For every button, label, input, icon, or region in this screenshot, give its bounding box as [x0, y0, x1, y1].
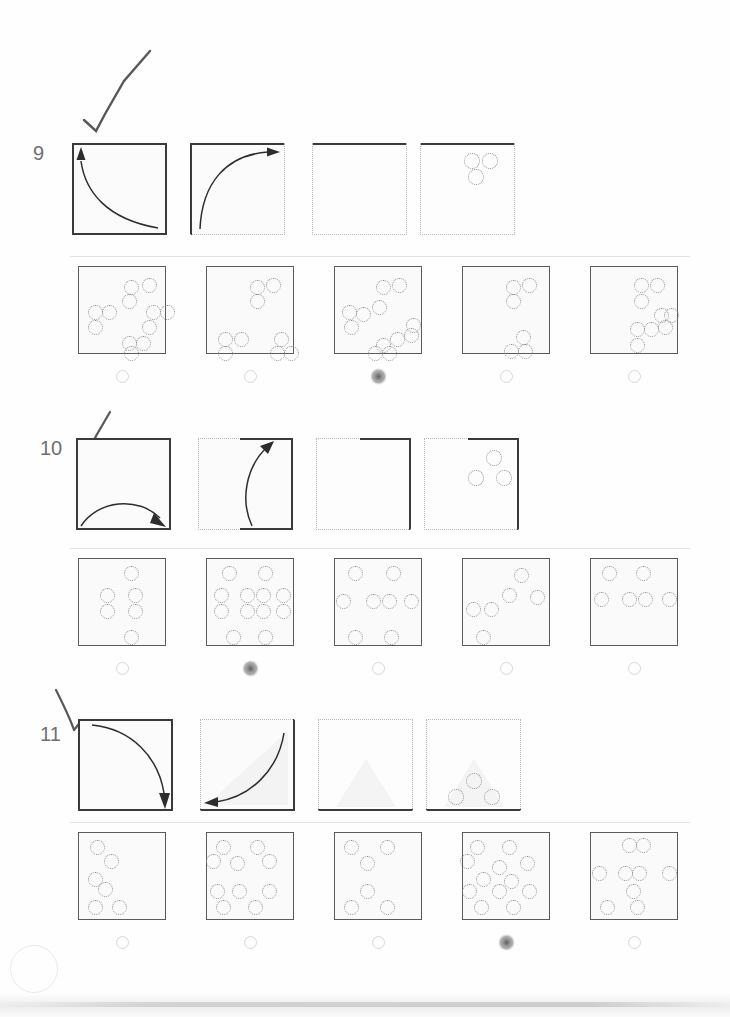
answer-bubble-9-D[interactable]: [500, 370, 513, 383]
row-separator: [70, 256, 690, 257]
punched-hole: [142, 320, 157, 335]
punched-hole: [630, 322, 645, 337]
edge-solid-right: [409, 438, 411, 530]
punched-hole: [476, 630, 491, 645]
punched-hole: [248, 900, 263, 915]
punched-hole: [384, 630, 399, 645]
punched-hole: [88, 305, 103, 320]
answer-bubble-9-A[interactable]: [116, 370, 129, 383]
punched-hole: [146, 305, 161, 320]
answer-bubble-10-B[interactable]: [244, 662, 257, 675]
punched-hole: [404, 328, 419, 343]
punched-hole: [662, 866, 677, 881]
answer-bubble-11-A[interactable]: [116, 936, 129, 949]
option-box-11-D[interactable]: [462, 832, 550, 920]
stimulus-box-10-1: [76, 438, 171, 530]
option-box-9-A[interactable]: [78, 266, 166, 354]
edge-dotted-left: [420, 143, 421, 235]
punched-hole: [484, 789, 500, 805]
punched-hole: [382, 594, 397, 609]
stimulus-box-9-3: [312, 143, 407, 235]
punched-hole: [216, 900, 231, 915]
option-box-11-A[interactable]: [78, 832, 166, 920]
option-box-10-D[interactable]: [462, 558, 550, 646]
punched-hole: [630, 900, 645, 915]
punched-hole: [474, 900, 489, 915]
option-box-10-A[interactable]: [78, 558, 166, 646]
punched-hole: [256, 588, 271, 603]
punched-hole: [230, 856, 245, 871]
option-box-9-D[interactable]: [462, 266, 550, 354]
punched-hole: [104, 854, 119, 869]
stimulus-row-11: [78, 719, 538, 814]
punched-hole: [632, 866, 647, 881]
punched-hole: [502, 840, 517, 855]
punched-hole: [634, 294, 649, 309]
answer-bubble-10-E[interactable]: [628, 662, 641, 675]
punched-hole: [466, 602, 481, 617]
option-box-10-C[interactable]: [334, 558, 422, 646]
punched-hole: [210, 884, 225, 899]
punched-hole: [630, 338, 645, 353]
punched-hole: [100, 588, 115, 603]
punched-hole: [136, 336, 151, 351]
punched-hole: [258, 630, 273, 645]
edge-solid-top-right: [360, 438, 411, 440]
option-box-11-B[interactable]: [206, 832, 294, 920]
stimulus-box-9-2: [190, 143, 285, 235]
edge-dotted-right: [406, 143, 407, 235]
punched-hole: [344, 320, 359, 335]
answer-bubble-10-D[interactable]: [500, 662, 513, 675]
punched-hole: [348, 630, 363, 645]
punched-hole: [376, 280, 391, 295]
fold-arrow-icon: [76, 438, 171, 530]
option-box-10-E[interactable]: [590, 558, 678, 646]
punched-hole: [380, 900, 395, 915]
edge-dotted-left: [424, 438, 425, 530]
answer-bubble-9-E[interactable]: [628, 370, 641, 383]
answer-bubble-11-B[interactable]: [244, 936, 257, 949]
row-separator: [70, 822, 690, 823]
option-box-9-E[interactable]: [590, 266, 678, 354]
answer-bubble-11-D[interactable]: [500, 936, 513, 949]
punched-hole: [462, 884, 477, 899]
option-box-10-B[interactable]: [206, 558, 294, 646]
stimulus-row-9: [72, 143, 532, 238]
answer-bubble-9-C[interactable]: [372, 370, 385, 383]
punched-hole: [214, 604, 229, 619]
punched-hole: [250, 280, 265, 295]
punched-hole: [366, 594, 381, 609]
option-box-9-C[interactable]: [334, 266, 422, 354]
option-box-11-C[interactable]: [334, 832, 422, 920]
edge-solid-top-right: [468, 438, 519, 440]
punched-hole: [274, 332, 289, 347]
scan-artifact-circle: [10, 945, 58, 993]
stimulus-box-10-4: [424, 438, 519, 530]
punched-hole: [100, 604, 115, 619]
punched-hole: [522, 884, 537, 899]
stimulus-box-11-1: [78, 719, 173, 811]
punched-hole: [482, 153, 498, 169]
punched-hole: [468, 470, 484, 486]
punched-hole: [486, 450, 502, 466]
punched-hole: [496, 470, 512, 486]
answer-bubble-11-E[interactable]: [628, 936, 641, 949]
punched-hole: [88, 900, 103, 915]
answer-bubble-11-C[interactable]: [372, 936, 385, 949]
handwritten-checkmark-9: [72, 38, 182, 138]
option-box-9-B[interactable]: [206, 266, 294, 354]
punched-hole: [504, 874, 519, 889]
punched-hole: [240, 604, 255, 619]
punched-hole: [124, 280, 139, 295]
answer-bubble-10-A[interactable]: [116, 662, 129, 675]
answer-bubble-10-C[interactable]: [372, 662, 385, 675]
punched-hole: [522, 278, 537, 293]
punched-hole: [600, 900, 615, 915]
punched-hole: [592, 866, 607, 881]
punched-hole: [258, 566, 273, 581]
punched-hole: [284, 346, 299, 361]
answer-bubble-9-B[interactable]: [244, 370, 257, 383]
option-box-11-E[interactable]: [590, 832, 678, 920]
punched-hole: [262, 884, 277, 899]
punched-hole: [518, 344, 533, 359]
